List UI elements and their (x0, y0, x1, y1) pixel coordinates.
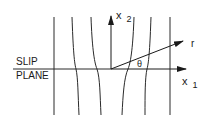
theta-label: θ (137, 59, 142, 69)
lattice-line-3 (91, 17, 101, 115)
diagram-svg: SLIP PLANE x 2 x 1 r θ (0, 0, 208, 122)
lattice-lines (54, 17, 170, 115)
r-vector-arrow (111, 41, 183, 69)
plane-label: PLANE (16, 70, 49, 81)
x2-label-subscript: 2 (127, 14, 132, 24)
dislocation-diagram: SLIP PLANE x 2 x 1 r θ (0, 0, 208, 122)
slip-label: SLIP (16, 56, 38, 67)
lattice-line-2 (72, 17, 79, 115)
x1-label-subscript: 1 (193, 80, 198, 90)
r-label: r (191, 38, 195, 49)
x2-label: x 2 (116, 9, 132, 24)
lattice-line-5 (145, 17, 151, 115)
lattice-line-4 (122, 17, 134, 115)
x2-label-main: x (116, 9, 122, 21)
x1-label-main: x (182, 75, 188, 87)
x1-label: x 1 (182, 75, 198, 90)
